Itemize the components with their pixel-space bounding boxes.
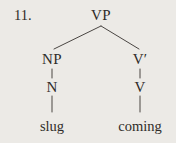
terminal-slug: slug: [40, 119, 64, 134]
terminal-coming: coming: [118, 119, 162, 134]
branch-vp-np: [54, 26, 101, 49]
node-v-bar: V′: [133, 52, 148, 67]
node-vp: VP: [91, 8, 111, 23]
syntax-tree-figure: 11. VP NP V′ N V slug coming: [0, 0, 176, 143]
branch-vp-vbar: [101, 26, 139, 49]
node-v: V: [134, 80, 145, 95]
node-np: NP: [42, 52, 62, 67]
node-n: N: [46, 80, 57, 95]
